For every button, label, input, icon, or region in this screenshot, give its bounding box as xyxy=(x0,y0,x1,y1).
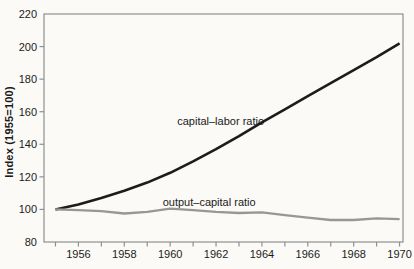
y-tick-label: 100 xyxy=(19,203,37,215)
plot-svg: 8010012014016018020022019561958196019621… xyxy=(0,0,414,269)
index-line-chart: 8010012014016018020022019561958196019621… xyxy=(0,0,414,269)
x-tick-label: 1964 xyxy=(250,248,274,260)
x-tick-label: 1968 xyxy=(341,248,365,260)
y-tick-label: 180 xyxy=(19,73,37,85)
x-tick-label: 1962 xyxy=(204,248,228,260)
x-tick-label: 1970 xyxy=(387,248,411,260)
y-tick-label: 80 xyxy=(25,236,37,248)
output-capital-line xyxy=(56,209,400,220)
y-tick-label: 200 xyxy=(19,41,37,53)
y-tick-label: 120 xyxy=(19,171,37,183)
capital-labor-series-label: capital–labor ratio xyxy=(177,115,264,127)
y-tick-label: 140 xyxy=(19,138,37,150)
output-capital-series-label: output–capital ratio xyxy=(163,196,256,208)
x-tick-label: 1966 xyxy=(296,248,320,260)
y-tick-label: 160 xyxy=(19,106,37,118)
y-tick-label: 220 xyxy=(19,8,37,20)
y-axis-title: Index (1955=100) xyxy=(3,86,15,178)
x-tick-label: 1958 xyxy=(112,248,136,260)
x-tick-label: 1960 xyxy=(158,248,182,260)
x-tick-label: 1956 xyxy=(66,248,90,260)
